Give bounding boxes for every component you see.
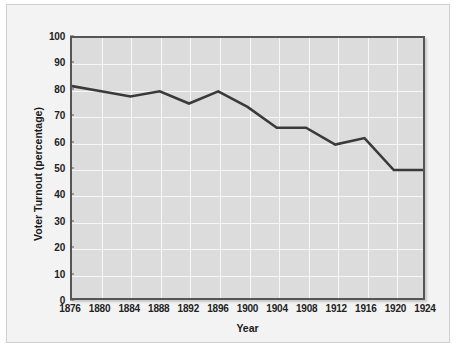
y-tick-mark: [70, 141, 74, 142]
x-tick-label: 1912: [326, 303, 347, 314]
y-tick-mark: [70, 168, 74, 169]
y-tick-mark: [70, 88, 74, 89]
y-tick-label: 80: [54, 83, 65, 94]
x-tick-label: 1904: [266, 303, 287, 314]
y-tick-mark: [70, 194, 74, 195]
x-tick-label: 1916: [355, 303, 376, 314]
x-axis-ticks: 1876188018841888189218961900190419081912…: [70, 303, 425, 319]
y-tick-label: 10: [54, 268, 65, 279]
y-tick-label: 100: [49, 31, 65, 42]
y-tick-mark: [70, 62, 74, 63]
chart-figure: 0102030405060708090100 18761880188418881…: [0, 0, 456, 357]
y-tick-label: 90: [54, 57, 65, 68]
y-tick-label: 20: [54, 242, 65, 253]
y-tick-mark: [70, 273, 74, 274]
x-tick-label: 1908: [296, 303, 317, 314]
y-tick-label: 40: [54, 189, 65, 200]
y-tick-label: 70: [54, 110, 65, 121]
x-tick-label: 1876: [59, 303, 80, 314]
x-tick-label: 1920: [385, 303, 406, 314]
y-tick-mark: [70, 247, 74, 248]
x-tick-label: 1900: [237, 303, 258, 314]
plot-area: [70, 36, 425, 300]
x-axis-title: Year: [70, 322, 425, 334]
series-svg: [72, 38, 423, 298]
y-tick-mark: [70, 36, 74, 37]
y-tick-label: 30: [54, 215, 65, 226]
y-axis-title: Voter Turnout (percentage): [32, 74, 44, 274]
line-series-voter-turnout: [72, 86, 423, 170]
x-tick-label: 1884: [118, 303, 139, 314]
y-tick-mark: [70, 220, 74, 221]
plot-inner: [72, 38, 423, 298]
x-tick-label: 1924: [414, 303, 435, 314]
figure-card: 0102030405060708090100 18761880188418881…: [6, 4, 450, 343]
x-tick-label: 1892: [178, 303, 199, 314]
y-tick-label: 60: [54, 136, 65, 147]
x-tick-label: 1880: [89, 303, 110, 314]
y-tick-mark: [70, 300, 74, 301]
y-tick-mark: [70, 115, 74, 116]
y-tick-label: 50: [54, 163, 65, 174]
x-tick-label: 1888: [148, 303, 169, 314]
x-tick-label: 1896: [207, 303, 228, 314]
